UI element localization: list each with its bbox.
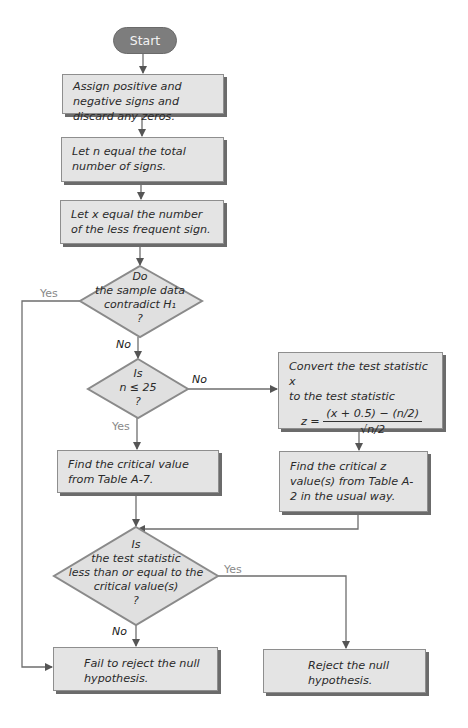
decision-contradict: Do the sample data contradict H₁ ? xyxy=(84,270,196,326)
decision-test-statistic: Is the test statistic less than or equal… xyxy=(60,538,212,608)
start-node: Start xyxy=(113,27,177,54)
label-yes-n-le-25: Yes xyxy=(112,420,130,433)
label-no-test-stat: No xyxy=(112,625,127,638)
decision-line: less than or equal to the xyxy=(60,566,212,580)
decision-line: Do xyxy=(84,270,196,284)
convert-line-1: Convert the test statistic x xyxy=(289,359,434,389)
label-no-n-le-25: No xyxy=(192,373,207,386)
z-formula: z = (x + 0.5) − (n/2) √n/2 xyxy=(289,406,434,437)
label-no-contradict: No xyxy=(116,338,131,351)
decision-line: Is xyxy=(60,538,212,552)
formula-denominator: √n/2 xyxy=(323,422,422,437)
step-let-x: Let x equal the number of the less frequ… xyxy=(60,200,224,244)
decision-line: the test statistic xyxy=(60,552,212,566)
decision-line: contradict H₁ xyxy=(84,298,196,312)
decision-n-le-25: Is n ≤ 25 ? xyxy=(98,367,178,409)
formula-fraction: (x + 0.5) − (n/2) √n/2 xyxy=(323,406,422,437)
formula-numerator: (x + 0.5) − (n/2) xyxy=(323,406,422,422)
decision-line: ? xyxy=(98,395,178,409)
decision-line: ? xyxy=(60,594,212,608)
formula-lhs: z = xyxy=(301,415,320,428)
step-let-n: Let n equal the total number of signs. xyxy=(61,137,224,182)
step-find-critical-z: Find the critical z value(s) from Table … xyxy=(279,451,428,512)
decision-line: Is xyxy=(98,367,178,381)
decision-line: n ≤ 25 xyxy=(98,381,178,395)
step-assign-signs: Assign positive and negative signs and d… xyxy=(62,74,224,114)
flowchart-canvas: Start Assign positive and negative signs… xyxy=(0,0,468,728)
step-convert-test-statistic: Convert the test statistic x to the test… xyxy=(278,352,443,429)
convert-line-2: to the test statistic xyxy=(289,389,434,404)
decision-line: the sample data xyxy=(84,284,196,298)
decision-line: critical value(s) xyxy=(60,580,212,594)
label-yes-contradict: Yes xyxy=(40,287,58,300)
step-find-critical-table-a7: Find the critical value from Table A-7. xyxy=(57,450,219,493)
outcome-reject: Reject the null hypothesis. xyxy=(263,649,426,693)
label-yes-test-stat: Yes xyxy=(224,563,242,576)
decision-line: ? xyxy=(84,312,196,326)
outcome-fail-to-reject: Fail to reject the null hypothesis. xyxy=(53,647,218,691)
